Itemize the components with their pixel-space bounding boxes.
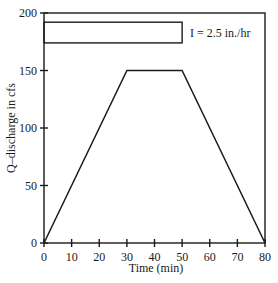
y-tick-label: 100 — [19, 121, 37, 135]
y-tick-label: 150 — [19, 64, 37, 78]
y-tick-label: 200 — [19, 6, 37, 20]
x-tick-label: 80 — [259, 250, 271, 264]
x-tick-label: 0 — [41, 250, 47, 264]
hydrograph-chart: I = 2.5 in./hr 050100150200 010203040506… — [0, 0, 278, 283]
x-tick-label: 60 — [204, 250, 216, 264]
rainfall-intensity-block — [44, 22, 182, 43]
x-axis-label: Time (min) — [129, 261, 184, 275]
x-tick-label: 20 — [93, 250, 105, 264]
x-tick-label: 10 — [66, 250, 78, 264]
y-tick-label: 0 — [31, 236, 37, 250]
hydrograph-line — [44, 71, 265, 244]
intensity-annotation: I = 2.5 in./hr — [190, 26, 250, 40]
x-tick-label: 70 — [231, 250, 243, 264]
plot-frame — [44, 13, 265, 243]
y-tick-label: 50 — [25, 179, 37, 193]
y-axis-label: Q–discharge in cfs — [4, 83, 18, 173]
